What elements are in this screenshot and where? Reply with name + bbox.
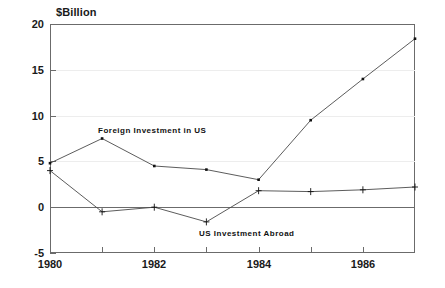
x-tick-mark [259, 247, 260, 253]
y-tick-label: 20 [0, 19, 44, 29]
y-tick-label: 0 [0, 202, 44, 212]
gridline [50, 70, 415, 71]
x-tick-mark [102, 247, 103, 253]
y-tick-mark [50, 207, 56, 208]
y-tick-mark [50, 253, 56, 254]
y-tick-label: 10 [0, 111, 44, 121]
x-tick-mark [363, 247, 364, 253]
y-tick-mark [50, 116, 56, 117]
gridline [50, 116, 415, 117]
y-tick-mark [50, 161, 56, 162]
y-tick-label: 5 [0, 156, 44, 166]
x-tick-label: 1980 [38, 258, 62, 270]
x-tick-label: 1986 [351, 258, 375, 270]
y-axis-title: $Billion [56, 6, 97, 18]
x-tick-label: 1984 [247, 258, 271, 270]
plot-area [50, 24, 415, 253]
series-label-foreign-investment-in-us: Foreign Investment in US [98, 126, 206, 135]
y-tick-mark [50, 24, 56, 25]
zero-line [50, 207, 415, 208]
x-tick-mark [311, 247, 312, 253]
x-tick-mark [154, 247, 155, 253]
series-label-us-investment-abroad: US Investment Abroad [199, 229, 295, 238]
y-tick-label: 15 [0, 65, 44, 75]
gridline [50, 161, 415, 162]
y-tick-mark [50, 70, 56, 71]
x-tick-mark [206, 247, 207, 253]
x-tick-label: 1982 [142, 258, 166, 270]
y-tick-label: -5 [0, 248, 44, 258]
line-chart: $Billion 20151050-5 1980198219841986 For… [0, 0, 445, 288]
